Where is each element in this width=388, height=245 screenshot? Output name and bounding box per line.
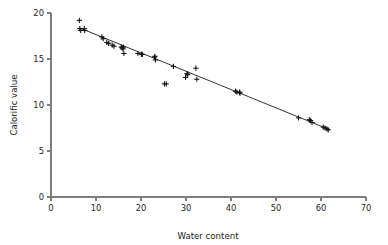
- x-tick-label: 60: [316, 203, 327, 213]
- y-tick-label: 5: [39, 146, 44, 156]
- x-tick-label: 10: [91, 203, 102, 213]
- x-tick-label: 70: [361, 203, 372, 213]
- x-tick-label: 40: [226, 203, 237, 213]
- scatter-plot: 05101520 010203040506070 Water content C…: [0, 0, 388, 245]
- y-tick-label: 0: [39, 192, 44, 202]
- x-tick-label: 50: [271, 203, 282, 213]
- x-tick-label: 0: [48, 203, 53, 213]
- x-axis-title: Water content: [177, 231, 239, 241]
- y-tick-label: 20: [33, 8, 44, 18]
- y-tick-label: 15: [33, 54, 44, 64]
- x-tick-label: 20: [136, 203, 147, 213]
- y-axis-title: Calorific value: [9, 74, 19, 135]
- chart-figure: 05101520 010203040506070 Water content C…: [0, 0, 388, 245]
- plot-background: [0, 0, 388, 245]
- y-tick-label: 10: [33, 100, 44, 110]
- x-tick-label: 30: [181, 203, 192, 213]
